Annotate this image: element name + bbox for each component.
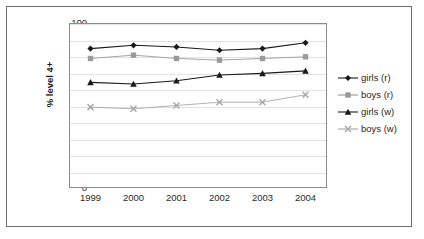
legend-item-boys-w[interactable]: boys (w): [337, 120, 409, 137]
data-point: [259, 45, 265, 51]
x-axis-tick-label: 2003: [241, 193, 285, 203]
series-girls-w: [87, 68, 309, 87]
data-point: [216, 47, 222, 53]
legend-label: boys (w): [359, 123, 397, 134]
legend-label: girls (w): [359, 106, 394, 117]
legend-item-girls-w[interactable]: girls (w): [337, 103, 409, 120]
series-layer: [69, 23, 327, 188]
series-boys-w: [88, 92, 309, 112]
data-point: [88, 56, 93, 61]
chart-legend: girls (r)boys (r)girls (w)boys (w): [337, 69, 409, 137]
legend-item-boys-r[interactable]: boys (r): [337, 86, 409, 103]
x-axis-tick-label: 2002: [198, 193, 242, 203]
series-girls-r: [87, 40, 308, 54]
legend-label: boys (r): [359, 89, 393, 100]
diamond-marker-icon: [337, 72, 359, 84]
data-point: [87, 45, 93, 51]
legend-item-girls-r[interactable]: girls (r): [337, 69, 409, 86]
chart-container: % level 4+ 1009080706050403020100 199920…: [7, 7, 413, 228]
x-axis-tick-label: 2004: [284, 193, 328, 203]
x-axis-tick-label: 1999: [69, 193, 113, 203]
data-point: [131, 52, 136, 57]
legend-label: girls (r): [359, 72, 391, 83]
x-axis-tick-label: 2000: [112, 193, 156, 203]
data-point: [173, 44, 179, 50]
data-point: [260, 56, 265, 61]
series-boys-r: [88, 52, 308, 62]
data-point: [174, 56, 179, 61]
cross-marker-icon: [337, 123, 359, 135]
data-point: [303, 54, 308, 59]
square-marker-icon: [337, 89, 359, 101]
chart-frame: % level 4+ 1009080706050403020100 199920…: [6, 6, 412, 227]
data-point: [217, 57, 222, 62]
triangle-marker-icon: [337, 106, 359, 118]
data-point: [130, 42, 136, 48]
x-axis-tick-label: 2001: [155, 193, 199, 203]
data-point: [302, 40, 308, 46]
